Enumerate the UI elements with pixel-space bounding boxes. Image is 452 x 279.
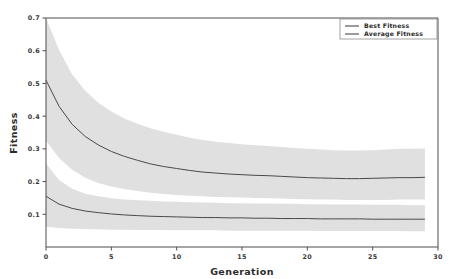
- x-axis-title: Generation: [210, 266, 274, 277]
- x-tick-label: 20: [303, 253, 313, 261]
- x-tick-label: 5: [109, 253, 114, 261]
- x-tick-label: 30: [433, 253, 443, 261]
- x-tick-label: 0: [44, 253, 49, 261]
- legend-label-average: Average Fitness: [364, 30, 423, 38]
- chart-figure: 0.10.20.30.40.50.60.7 051015202530 Gener…: [0, 0, 452, 279]
- fitness-line-chart: 0.10.20.30.40.50.60.7 051015202530 Gener…: [0, 0, 452, 279]
- y-tick-label: 0.3: [28, 145, 40, 153]
- chart-legend[interactable]: Best Fitness Average Fitness: [340, 19, 437, 39]
- x-tick-label: 25: [368, 253, 378, 261]
- x-tick-label: 10: [172, 253, 182, 261]
- y-axis-title: Fitness: [8, 112, 19, 154]
- y-tick-label: 0.6: [28, 47, 40, 55]
- y-tick-label: 0.5: [28, 80, 40, 88]
- y-tick-label: 0.2: [28, 178, 40, 186]
- y-tick-label: 0.7: [28, 14, 40, 22]
- legend-label-best: Best Fitness: [364, 22, 409, 29]
- y-tick-label: 0.4: [28, 113, 40, 121]
- x-tick-label: 15: [237, 253, 247, 261]
- y-tick-label: 0.1: [28, 211, 40, 219]
